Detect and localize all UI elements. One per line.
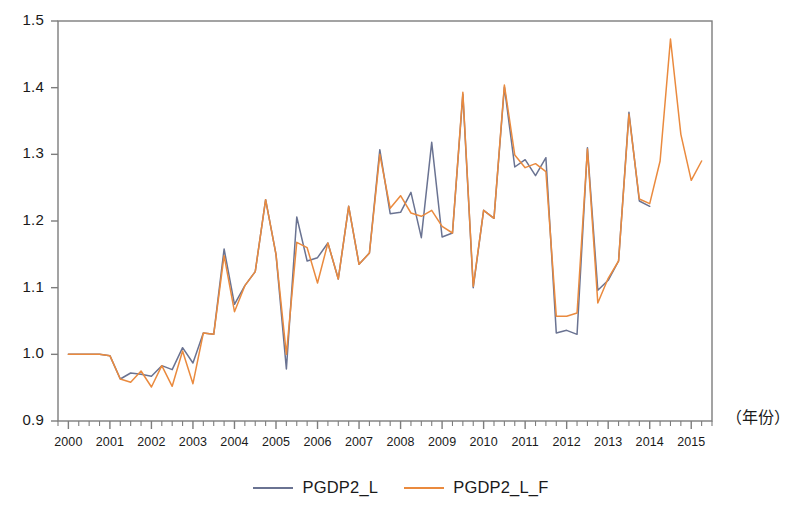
x-axis-ticks — [58, 421, 712, 429]
x-axis-tick-label: 2001 — [88, 435, 132, 449]
chart-legend: PGDP2_L PGDP2_L_F — [0, 478, 802, 497]
x-axis-tick-label: 2005 — [254, 435, 298, 449]
legend-entry-pgdp2-l: PGDP2_L — [253, 478, 378, 497]
y-axis-tick-label: 1.4 — [2, 78, 44, 95]
y-axis-tick-label: 1.1 — [2, 278, 44, 295]
x-axis-tick-label: 2011 — [503, 435, 547, 449]
y-axis-ticks — [51, 21, 58, 421]
legend-label-pgdp2-l-f: PGDP2_L_F — [453, 478, 548, 497]
y-axis-tick-label: 1.2 — [2, 211, 44, 228]
legend-swatch-pgdp2-l — [253, 487, 293, 489]
chart-container: 0.91.01.11.21.31.41.5 200020012002200320… — [0, 0, 802, 507]
y-axis-tick-label: 1.5 — [2, 11, 44, 28]
legend-label-pgdp2-l: PGDP2_L — [302, 478, 378, 497]
x-axis-tick-label: 2004 — [212, 435, 256, 449]
x-axis-tick-label: 2009 — [420, 435, 464, 449]
data-series-group — [68, 39, 701, 387]
line-chart-plot — [0, 0, 802, 507]
x-axis-unit-label: （年份） — [726, 404, 790, 428]
x-axis-tick-label: 2007 — [337, 435, 381, 449]
x-axis-tick-label: 2015 — [669, 435, 713, 449]
legend-entry-pgdp2-l-f: PGDP2_L_F — [404, 478, 548, 497]
x-axis-tick-label: 2006 — [296, 435, 340, 449]
x-axis-tick-label: 2010 — [462, 435, 506, 449]
x-axis-tick-label: 2013 — [586, 435, 630, 449]
x-axis-tick-label: 2014 — [628, 435, 672, 449]
y-axis-tick-label: 1.0 — [2, 344, 44, 361]
y-axis-tick-label: 0.9 — [2, 411, 44, 428]
x-axis-tick-label: 2012 — [545, 435, 589, 449]
x-axis-tick-label: 2008 — [379, 435, 423, 449]
series-line-PGDP2_L — [68, 87, 649, 379]
y-axis-tick-label: 1.3 — [2, 144, 44, 161]
x-axis-tick-label: 2002 — [129, 435, 173, 449]
plot-frame — [58, 21, 712, 421]
series-line-PGDP2_L_F — [68, 39, 701, 387]
legend-swatch-pgdp2-l-f — [404, 487, 444, 489]
x-axis-tick-label: 2000 — [46, 435, 90, 449]
x-axis-tick-label: 2003 — [171, 435, 215, 449]
